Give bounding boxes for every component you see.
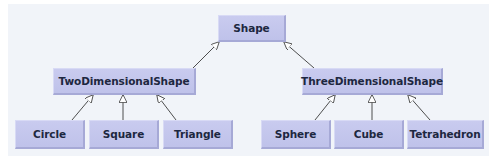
edge-circle-to-two [72,95,93,120]
node-square: Square [89,120,159,149]
node-label: Sphere [275,128,316,140]
edge-triangle-to-two [157,95,176,120]
node-cube: Cube [334,120,404,149]
node-label: Circle [33,128,66,140]
node-tetrahedron: Tetrahedron [407,120,484,149]
edge-tetrahedron-to-three [408,95,430,120]
node-sphere: Sphere [261,120,331,149]
node-triangle: Triangle [163,120,233,149]
node-shape: Shape [218,15,286,42]
edge-two-to-shape [193,42,219,68]
node-label: ThreeDimensionalShape [301,75,443,87]
node-label: Triangle [174,128,221,140]
node-label: Cube [354,128,383,140]
node-label: TwoDimensionalShape [59,75,190,87]
node-circle: Circle [15,120,85,149]
edge-sphere-to-three [315,95,335,120]
node-label: Shape [233,22,269,34]
node-three-dimensional-shape: ThreeDimensionalShape [302,68,443,95]
node-label: Square [103,128,144,140]
node-two-dimensional-shape: TwoDimensionalShape [53,68,196,95]
node-label: Tetrahedron [409,128,480,140]
edge-three-to-shape [284,42,314,68]
